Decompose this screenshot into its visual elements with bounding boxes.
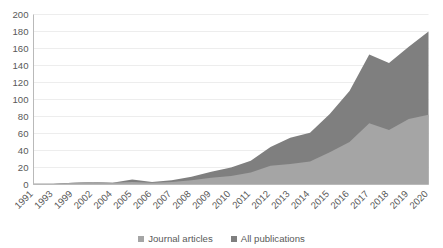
series-areas bbox=[34, 32, 429, 185]
x-tick-label: 2019 bbox=[387, 188, 410, 211]
x-tick-label: 2020 bbox=[407, 188, 430, 211]
legend-swatch-icon bbox=[138, 236, 144, 242]
x-tick-label: 2011 bbox=[230, 188, 252, 210]
x-tick-label: 2008 bbox=[170, 188, 193, 211]
x-tick-label: 2007 bbox=[150, 188, 173, 211]
x-tick-label: 2010 bbox=[210, 188, 233, 211]
x-tick-label: 2012 bbox=[249, 188, 272, 211]
x-tick-label: 2004 bbox=[91, 188, 114, 211]
x-tick-label: 2017 bbox=[348, 188, 371, 211]
y-tick-label: 120 bbox=[12, 77, 28, 88]
x-tick-label: 2005 bbox=[111, 188, 134, 211]
y-axis-tick-labels: 020406080100120140160180200 bbox=[12, 9, 28, 190]
legend-item[interactable]: All publications bbox=[231, 233, 305, 244]
area-chart: 020406080100120140160180200 199119931999… bbox=[0, 0, 443, 248]
y-tick-label: 160 bbox=[12, 43, 28, 54]
x-tick-label: 2018 bbox=[368, 188, 391, 211]
x-tick-label: 2014 bbox=[289, 188, 312, 211]
legend-item[interactable]: Journal articles bbox=[138, 233, 213, 244]
y-tick-label: 40 bbox=[18, 145, 29, 156]
y-tick-label: 200 bbox=[12, 9, 28, 20]
x-tick-label: 2006 bbox=[131, 188, 154, 211]
x-tick-label: 2015 bbox=[308, 188, 331, 211]
x-tick-label: 1999 bbox=[52, 188, 75, 211]
x-tick-label: 2013 bbox=[269, 188, 292, 211]
legend-label: All publications bbox=[241, 233, 305, 244]
chart-canvas: 020406080100120140160180200 199119931999… bbox=[0, 0, 443, 248]
x-tick-label: 2009 bbox=[190, 188, 213, 211]
x-axis-tick-labels: 1991199319992002200420052006200720082009… bbox=[12, 188, 430, 211]
legend-swatch-icon bbox=[231, 236, 237, 242]
y-tick-label: 180 bbox=[12, 26, 28, 37]
chart-legend: Journal articlesAll publications bbox=[0, 233, 443, 244]
y-tick-label: 80 bbox=[18, 111, 29, 122]
y-tick-label: 140 bbox=[12, 60, 28, 71]
x-tick-label: 2002 bbox=[71, 188, 94, 211]
y-tick-label: 60 bbox=[18, 128, 29, 139]
y-tick-label: 20 bbox=[18, 162, 29, 173]
legend-label: Journal articles bbox=[148, 233, 213, 244]
x-tick-label: 2016 bbox=[328, 188, 351, 211]
y-tick-label: 100 bbox=[12, 94, 28, 105]
x-tick-label: 1993 bbox=[32, 188, 55, 211]
x-tick-label: 1991 bbox=[12, 188, 35, 211]
